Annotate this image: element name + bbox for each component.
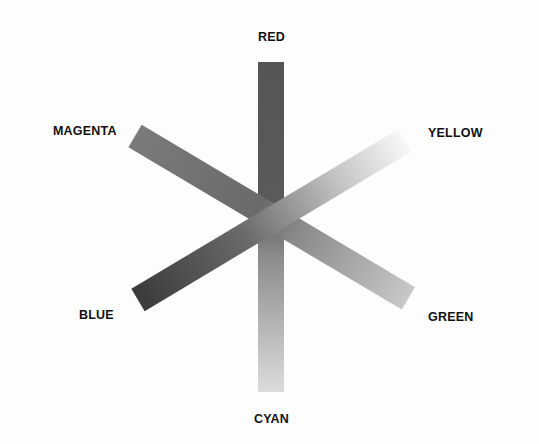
label-yellow: YELLOW bbox=[428, 126, 483, 140]
label-blue: BLUE bbox=[79, 308, 114, 322]
label-green: GREEN bbox=[428, 310, 473, 324]
label-cyan: CYAN bbox=[254, 412, 289, 426]
complementary-color-diagram bbox=[0, 0, 539, 444]
label-red: RED bbox=[258, 30, 285, 44]
diagram-canvas: RED MAGENTA YELLOW BLUE GREEN CYAN bbox=[0, 0, 539, 444]
label-magenta: MAGENTA bbox=[53, 124, 117, 138]
